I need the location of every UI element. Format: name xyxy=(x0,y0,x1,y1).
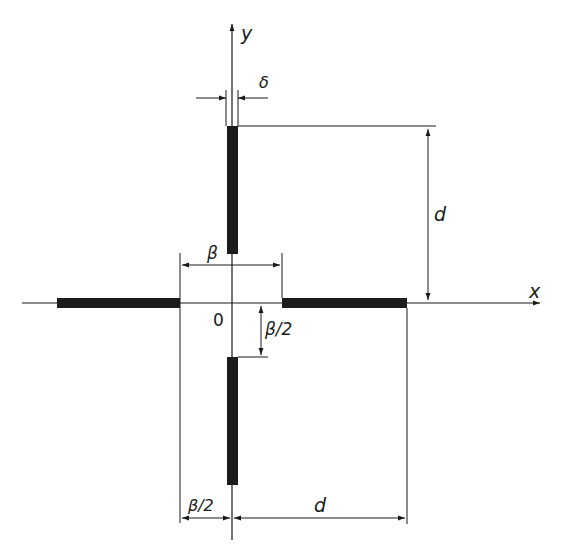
origin-label: 0 xyxy=(213,310,224,330)
delta-label: δ xyxy=(259,73,269,92)
beta-half-vertical-dimension xyxy=(238,306,268,357)
bottom-bar xyxy=(227,357,238,485)
beta-label: β xyxy=(206,243,218,263)
top-bar xyxy=(227,126,238,254)
d-horizontal-label: d xyxy=(314,494,327,516)
x-axis-label: x xyxy=(528,280,541,302)
right-bar xyxy=(282,298,407,308)
diagram-canvas: y x 0 δ β β/2 d β/2 d xyxy=(0,0,563,549)
left-bar xyxy=(57,298,180,308)
d-vertical-label: d xyxy=(434,203,447,225)
beta-half-horizontal-label: β/2 xyxy=(187,496,214,515)
y-axis-label: y xyxy=(240,22,253,44)
beta-half-vertical-label: β/2 xyxy=(264,319,292,339)
